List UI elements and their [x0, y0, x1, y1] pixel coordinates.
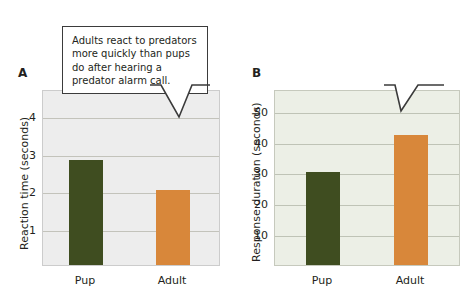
panel-b-ytick-40: 40 — [244, 136, 268, 149]
panel-b-callout-tail — [384, 84, 444, 116]
panel-b-plot-area — [274, 90, 460, 266]
panel-a-letter: A — [18, 66, 28, 80]
panel-a-xtick-adult: Adult — [158, 274, 187, 287]
panel-a-callout-tail — [150, 84, 210, 128]
panel-b-gridline-10 — [275, 236, 459, 237]
panel-a-bar-pup — [69, 160, 103, 265]
panel-b-bar-pup — [306, 172, 340, 265]
panel-a-ytick-3: 3 — [18, 148, 36, 161]
panel-b-ytick-30: 30 — [244, 167, 268, 180]
panel-b: B Response duration (seconds) 10 20 30 4… — [236, 0, 473, 297]
panel-b-letter: B — [252, 66, 261, 80]
panel-b-xtick-pup: Pup — [312, 274, 332, 287]
panel-a-gridline-3 — [43, 156, 219, 157]
panel-a-ytick-1: 1 — [18, 223, 36, 236]
panel-b-xtick-adult: Adult — [396, 274, 425, 287]
panel-b-gridline-20 — [275, 205, 459, 206]
panel-b-gridline-40 — [275, 144, 459, 145]
panel-a: A Reaction time (seconds) 1 2 3 4 Pup Ad… — [0, 0, 237, 297]
panel-a-xtick-pup: Pup — [75, 274, 95, 287]
panel-b-ytick-20: 20 — [244, 198, 268, 211]
panel-a-ytick-4: 4 — [18, 111, 36, 124]
panel-b-bar-adult — [394, 135, 428, 265]
panel-a-bar-adult — [156, 190, 190, 265]
panel-a-ytick-2: 2 — [18, 186, 36, 199]
panel-b-ytick-10: 10 — [244, 229, 268, 242]
panel-b-gridline-30 — [275, 174, 459, 175]
panel-b-ytick-50: 50 — [244, 105, 268, 118]
